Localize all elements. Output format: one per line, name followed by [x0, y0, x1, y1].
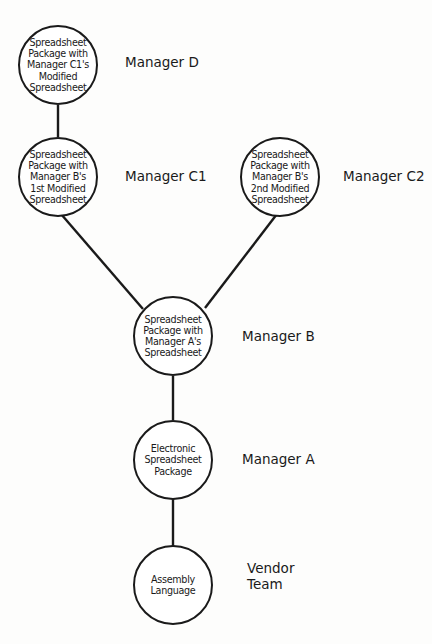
node-manager-d: Spreadsheet Package with Manager C1's Mo…	[18, 25, 98, 105]
node-text: Assembly Language	[151, 574, 196, 596]
node-text: Spreadsheet Package with Manager B's 2nd…	[250, 149, 310, 205]
node-manager-a: Electronic Spreadsheet Package	[133, 420, 213, 500]
role-label-vendor-team: Vendor Team	[247, 560, 294, 592]
node-vendor-team: Assembly Language	[133, 545, 213, 625]
edge-b-c1	[61, 214, 143, 309]
role-label-manager-d: Manager D	[125, 54, 199, 70]
node-manager-c1: Spreadsheet Package with Manager B's 1st…	[18, 137, 98, 217]
node-text: Spreadsheet Package with Manager C1's Mo…	[27, 37, 89, 93]
node-text: Spreadsheet Package with Manager B's 1st…	[28, 149, 88, 205]
node-text: Spreadsheet Package with Manager A's Spr…	[143, 314, 203, 359]
node-manager-c2: Spreadsheet Package with Manager B's 2nd…	[240, 137, 320, 217]
role-label-manager-c2: Manager C2	[343, 168, 424, 184]
node-manager-b: Spreadsheet Package with Manager A's Spr…	[133, 296, 213, 376]
role-label-manager-a: Manager A	[242, 451, 315, 467]
edge-b-c2	[205, 214, 277, 308]
role-label-manager-c1: Manager C1	[125, 168, 206, 184]
node-text: Electronic Spreadsheet Package	[144, 443, 201, 477]
role-label-manager-b: Manager B	[242, 328, 315, 344]
